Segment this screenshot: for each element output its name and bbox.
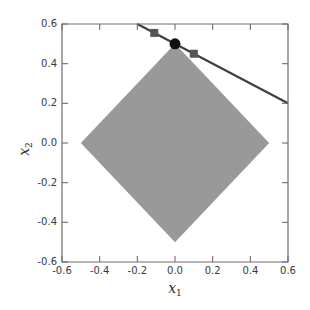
x-tick-label: 0.0: [167, 266, 183, 276]
y-tick-label: -0.2: [37, 178, 57, 188]
y-tick-label: -0.6: [37, 257, 57, 267]
y-tick-label: 0.2: [41, 98, 57, 108]
x-axis-title: x1: [168, 281, 182, 295]
x-tick-label: -0.4: [90, 266, 110, 276]
x-tick-label: 0.2: [205, 266, 221, 276]
y-axis-title: x2: [17, 142, 31, 156]
x-tick-label: -0.2: [128, 266, 148, 276]
x-tick-label: 0.6: [280, 266, 296, 276]
y-tick-label: 0.6: [41, 19, 57, 29]
square-marker-left: [150, 29, 158, 37]
x-axis-symbol: x: [168, 280, 176, 296]
figure-canvas: -0.6 -0.4 -0.2 0.0 0.2 0.4 0.6 0.6 0.4 0…: [0, 0, 310, 310]
x-tick-label: 0.4: [242, 266, 258, 276]
x-axis-subscript: 1: [176, 288, 182, 298]
y-tick-label: -0.4: [37, 217, 57, 227]
y-tick-label: 0.4: [41, 59, 57, 69]
x-tick-label: -0.6: [52, 266, 72, 276]
square-marker-right: [190, 50, 198, 58]
y-axis-symbol: x: [16, 148, 32, 156]
y-tick-label: 0.0: [41, 138, 57, 148]
solution-circle-marker: [170, 38, 181, 49]
y-axis-subscript: 2: [24, 142, 34, 148]
